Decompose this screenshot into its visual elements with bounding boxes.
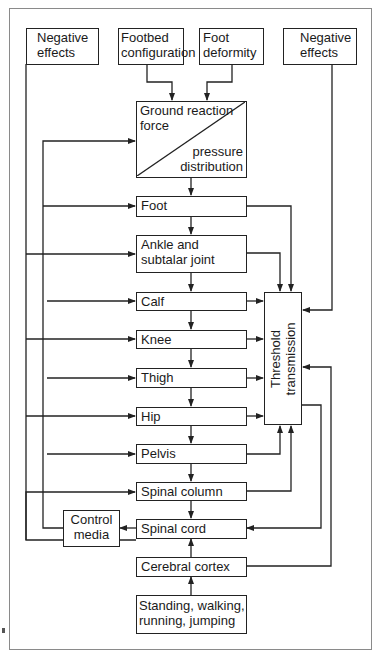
box-label: Spinal column <box>141 484 223 499</box>
control-media-box: Control media <box>63 510 120 547</box>
box-line: Threshold <box>268 330 283 388</box>
box-label: Cerebral cortex <box>141 559 230 574</box>
hip-box: Hip <box>136 407 247 426</box>
foot-box: Foot <box>136 196 247 217</box>
footbed-configuration-box: Footbed configuration <box>118 28 184 65</box>
box-line: force <box>140 118 233 133</box>
threshold-transmission-box: Threshold transmission <box>264 292 302 425</box>
box-line: Footbed <box>121 30 181 45</box>
box-line: Ankle and <box>141 237 242 252</box>
box-line: media <box>68 527 115 542</box>
box-line: effects <box>300 45 352 60</box>
threshold-transmission-label: Threshold transmission <box>268 294 298 424</box>
box-line: configuration <box>121 45 181 60</box>
box-line: pressure <box>180 144 243 159</box>
spinal-cord-box: Spinal cord <box>136 519 247 539</box>
box-line: effects <box>37 45 94 60</box>
box-label: Spinal cord <box>141 521 206 536</box>
box-label: Foot <box>141 198 167 213</box>
box-line: Control <box>68 512 115 527</box>
cerebral-cortex-box: Cerebral cortex <box>136 557 247 577</box>
box-line: running, jumping <box>139 613 244 628</box>
box-label: Calf <box>141 294 164 309</box>
spinal-column-box: Spinal column <box>136 482 247 501</box>
pressure-distribution-label: pressure distribution <box>180 144 243 174</box>
box-line: Standing, walking, <box>139 598 244 613</box>
box-line: transmission <box>283 322 298 395</box>
box-label: Thigh <box>141 370 174 385</box>
foot-deformity-box: Foot deformity <box>199 28 264 65</box>
ground-reaction-force-box: Ground reaction force pressure distribut… <box>136 101 247 178</box>
thigh-box: Thigh <box>136 368 247 388</box>
box-line: subtalar joint <box>141 252 242 267</box>
box-line: Ground reaction <box>140 103 233 118</box>
box-label: Hip <box>141 409 161 424</box>
knee-box: Knee <box>136 330 247 349</box>
box-line: distribution <box>180 159 243 174</box>
box-line: Negative <box>37 30 94 45</box>
box-line: deformity <box>203 45 260 60</box>
box-line: Negative <box>300 30 352 45</box>
box-label: Pelvis <box>141 446 176 461</box>
box-line: Foot <box>203 30 260 45</box>
pelvis-box: Pelvis <box>136 444 247 464</box>
ankle-subtalar-box: Ankle and subtalar joint <box>136 235 247 273</box>
negative-effects-right-box: Negative effects <box>283 28 357 65</box>
negative-effects-left-box: Negative effects <box>26 28 99 65</box>
calf-box: Calf <box>136 292 247 311</box>
box-label: Knee <box>141 332 171 347</box>
standing-walking-box: Standing, walking, running, jumping <box>136 595 247 634</box>
ground-reaction-force-label: Ground reaction force <box>140 103 233 133</box>
